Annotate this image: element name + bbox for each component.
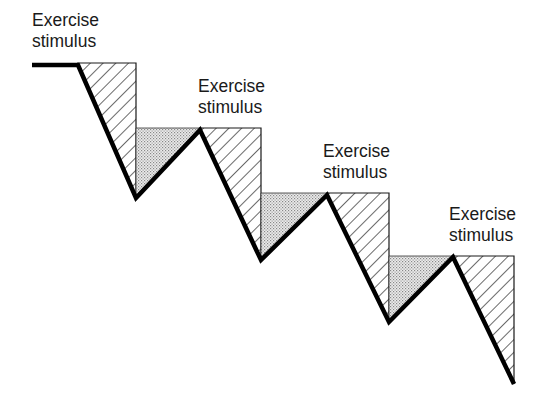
supercompensation-diagram	[0, 0, 549, 406]
exercise-stimulus-label-3: Exercise stimulus	[323, 141, 390, 183]
exercise-stimulus-label-2: Exercise stimulus	[198, 76, 265, 118]
exercise-stimulus-label-1: Exercise stimulus	[32, 10, 99, 52]
exercise-stimulus-label-4: Exercise stimulus	[449, 204, 516, 246]
